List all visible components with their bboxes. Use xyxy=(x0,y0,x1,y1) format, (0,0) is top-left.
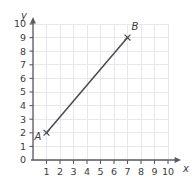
y-axis-arrow-icon xyxy=(30,17,36,23)
y-axis-label: y xyxy=(20,10,28,21)
x-tick-1: 1 xyxy=(43,166,49,177)
y-tick-6: 6 xyxy=(20,73,26,84)
y-tick-7: 7 xyxy=(20,59,26,70)
x-tick-5: 5 xyxy=(97,166,103,177)
x-axis-label: x xyxy=(182,163,189,174)
grid-lines xyxy=(33,24,168,160)
x-axis-arrow-icon xyxy=(175,157,181,163)
x-tick-2: 2 xyxy=(57,166,63,177)
x-tick-6: 6 xyxy=(111,166,117,177)
x-tick-4: 4 xyxy=(84,166,90,177)
x-tick-3: 3 xyxy=(70,166,76,177)
x-tick-10: 10 xyxy=(162,166,174,177)
x-tick-7: 7 xyxy=(124,166,130,177)
y-tick-1: 1 xyxy=(20,141,26,152)
y-tick-3: 3 xyxy=(20,114,26,125)
y-tick-2: 2 xyxy=(20,127,26,138)
y-tick-4: 4 xyxy=(20,100,26,111)
chart-canvas: 0 1 2 3 4 5 6 7 8 9 10 1 2 3 4 5 6 7 8 9… xyxy=(0,0,192,192)
y-tick-8: 8 xyxy=(20,46,26,57)
point-a-label: A xyxy=(34,131,42,142)
point-b-label: B xyxy=(132,21,139,32)
axis-arrows xyxy=(30,17,181,163)
y-tick-9: 9 xyxy=(20,32,26,43)
x-tick-labels: 1 2 3 4 5 6 7 8 9 10 xyxy=(43,166,174,177)
y-tick-0: 0 xyxy=(20,154,26,165)
y-tick-5: 5 xyxy=(20,86,26,97)
x-tick-8: 8 xyxy=(138,166,144,177)
coordinate-grid-chart: 0 1 2 3 4 5 6 7 8 9 10 1 2 3 4 5 6 7 8 9… xyxy=(0,0,192,192)
y-tick-labels: 0 1 2 3 4 5 6 7 8 9 10 xyxy=(14,18,26,165)
x-tick-9: 9 xyxy=(151,166,157,177)
